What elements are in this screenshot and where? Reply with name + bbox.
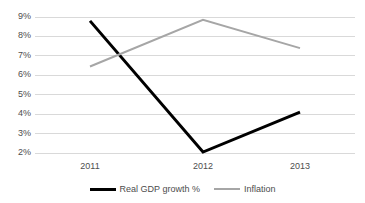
legend-item-label: Real GDP growth % (120, 184, 200, 194)
x-axis-category-label: 2013 (270, 162, 330, 171)
legend-item-label: Inflation (244, 184, 276, 194)
line-chart: 9%8%7%6%5%4%3%2% 201120122013 Real GDP g… (0, 0, 365, 203)
y-axis-tick-label: 8% (0, 31, 31, 40)
legend-item-1[interactable]: Real GDP growth % (90, 184, 200, 194)
y-axis-tick-label: 5% (0, 90, 31, 99)
y-axis-tick-label: 6% (0, 70, 31, 79)
y-axis-tick-label: 9% (0, 12, 31, 21)
plot-area (0, 0, 365, 203)
y-axis-tick-label: 3% (0, 129, 31, 138)
legend-item-2[interactable]: Inflation (214, 184, 276, 194)
x-axis-category-label: 2011 (60, 162, 120, 171)
y-axis-tick-label: 4% (0, 109, 31, 118)
series-lines (90, 20, 300, 152)
y-axis-tick-label: 7% (0, 51, 31, 60)
y-axis-tick-label: 2% (0, 148, 31, 157)
gridlines (35, 17, 355, 153)
series-line-1 (90, 21, 300, 152)
legend-line-swatch-icon (90, 188, 116, 191)
x-axis-category-label: 2012 (173, 162, 233, 171)
chart-legend: Real GDP growth %Inflation (0, 181, 365, 197)
legend-line-swatch-icon (214, 188, 240, 190)
